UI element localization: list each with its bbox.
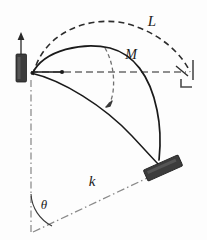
upper-solid-trajectory xyxy=(32,46,160,160)
pivot-up-arrowhead-icon xyxy=(18,32,25,40)
label-M: M xyxy=(124,47,138,62)
diagram-canvas: L M k θ xyxy=(0,0,207,240)
label-theta: θ xyxy=(41,197,48,212)
label-L: L xyxy=(147,13,156,29)
figure-container: L M k θ xyxy=(0,0,207,240)
mass-clamp-group xyxy=(143,155,183,181)
pivot-marker-dot xyxy=(60,70,64,74)
rotation-direction-arrow xyxy=(105,48,114,106)
radius-dash-dot-line xyxy=(33,172,160,232)
right-end-bracket-corner xyxy=(181,79,192,87)
label-k: k xyxy=(89,173,96,189)
mass-clamp-block xyxy=(143,155,183,181)
pivot-clamp-highlight xyxy=(18,57,21,79)
rotation-arrowhead-icon xyxy=(106,101,112,107)
lower-solid-trajectory xyxy=(31,73,160,166)
